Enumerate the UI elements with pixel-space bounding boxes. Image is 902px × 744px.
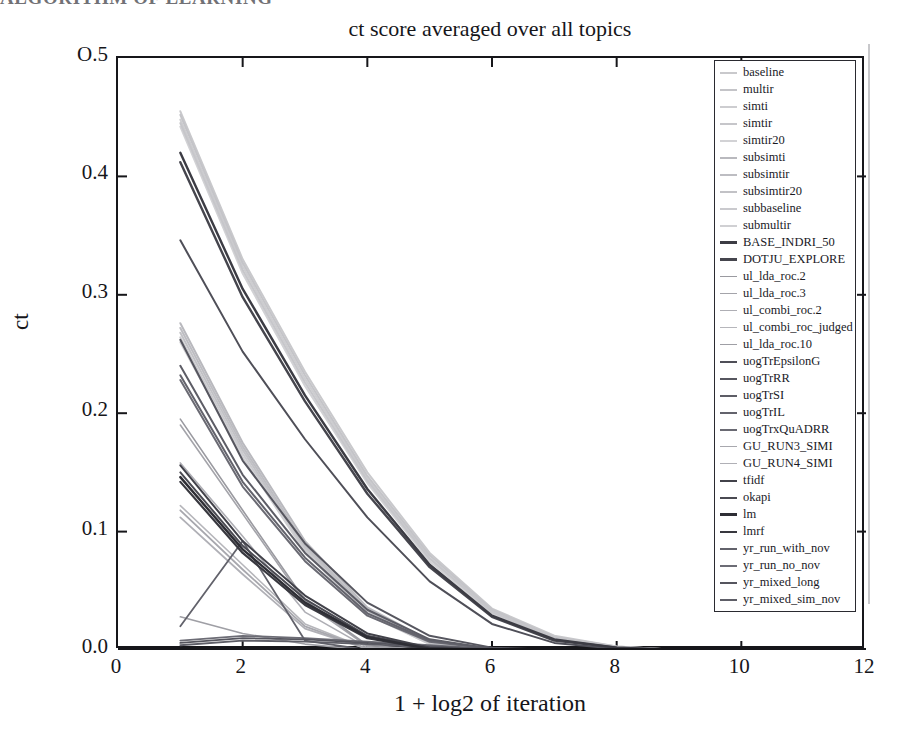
chart-legend: baselinemultirsimtisimtirsimtir20subsimt… [714,60,856,612]
legend-item-label: uogTrRR [743,372,790,385]
legend-item-label: yr_mixed_long [743,576,819,589]
legend-line-swatch-icon [720,140,737,142]
legend-item[interactable]: DOTJU_EXPLORE [715,251,855,268]
legend-line-swatch-icon [720,565,737,567]
legend-item[interactable]: ul_combi_roc.2 [715,302,855,319]
legend-line-swatch-icon [720,208,737,210]
legend-item-label: yr_run_with_nov [743,542,830,555]
chart-page: ALGORITHM OF LEARNING ct score averaged … [0,0,902,744]
legend-item[interactable]: simtir20 [715,132,855,149]
legend-item[interactable]: yr_run_no_nov [715,557,855,574]
x-axis-tick: 0 [86,654,146,679]
legend-line-swatch-icon [720,480,737,482]
legend-item-label: simti [743,100,768,113]
legend-item-label: subbaseline [743,202,801,215]
legend-line-swatch-icon [720,429,737,431]
legend-item[interactable]: uogTrRR [715,370,855,387]
y-axis-tick: O.5 [50,42,108,67]
legend-item[interactable]: baseline [715,64,855,81]
legend-item-label: submultir [743,219,791,232]
legend-line-swatch-icon [720,446,737,447]
scan-edge-artifact [868,44,870,604]
legend-line-swatch-icon [720,123,737,125]
legend-item[interactable]: GU_RUN3_SIMI [715,438,855,455]
legend-item[interactable]: uogTrEpsilonG [715,353,855,370]
legend-line-swatch-icon [720,157,737,159]
x-axis-tick: 6 [460,654,520,679]
legend-item[interactable]: tfidf [715,472,855,489]
y-axis-tick: 0.3 [50,279,108,304]
legend-item-label: lm [743,508,756,521]
x-axis-tick: 8 [585,654,645,679]
x-axis-tick: 10 [709,654,769,679]
legend-item[interactable]: yr_run_with_nov [715,540,855,557]
legend-item[interactable]: multir [715,81,855,98]
legend-item[interactable]: lm [715,506,855,523]
legend-line-swatch-icon [720,225,737,227]
legend-item[interactable]: ul_lda_roc.10 [715,336,855,353]
legend-item[interactable]: uogTrxQuADRR [715,421,855,438]
legend-item-label: simtir [743,117,772,130]
legend-item[interactable]: subsimti [715,149,855,166]
legend-item[interactable]: okapi [715,489,855,506]
legend-item[interactable]: simti [715,98,855,115]
legend-item-label: multir [743,83,774,96]
legend-item[interactable]: uogTrSI [715,387,855,404]
legend-item[interactable]: ul_lda_roc.2 [715,268,855,285]
legend-item-label: ul_lda_roc.2 [743,270,806,283]
legend-line-swatch-icon [720,276,737,277]
x-axis-tick: 12 [834,654,894,679]
legend-line-swatch-icon [720,241,737,244]
legend-item-label: ul_lda_roc.10 [743,338,812,351]
legend-line-swatch-icon [720,395,737,397]
legend-line-swatch-icon [720,361,737,363]
legend-item[interactable]: submultir [715,217,855,234]
legend-item-label: subsimtir20 [743,185,802,198]
legend-item-label: DOTJU_EXPLORE [743,253,845,266]
legend-item[interactable]: BASE_INDRI_50 [715,234,855,251]
legend-line-swatch-icon [720,582,737,584]
legend-line-swatch-icon [720,72,737,74]
legend-line-swatch-icon [720,497,737,499]
legend-item-label: yr_run_no_nov [743,559,820,572]
legend-item[interactable]: ul_combi_roc_judged [715,319,855,336]
chart-title: ct score averaged over all topics [116,16,864,42]
legend-line-swatch-icon [720,599,737,601]
legend-line-swatch-icon [720,89,737,91]
legend-item-label: uogTrIL [743,406,785,419]
legend-line-swatch-icon [720,531,737,533]
legend-item[interactable]: uogTrIL [715,404,855,421]
legend-line-swatch-icon [720,106,737,108]
legend-item[interactable]: GU_RUN4_SIMI [715,455,855,472]
legend-item[interactable]: ul_lda_roc.3 [715,285,855,302]
legend-line-swatch-icon [720,378,737,380]
legend-item-label: uogTrSI [743,389,784,402]
legend-item[interactable]: subsimtir20 [715,183,855,200]
x-axis-label: 1 + log2 of iteration [116,690,864,717]
legend-item[interactable]: lmrf [715,523,855,540]
legend-item[interactable]: subsimtir [715,166,855,183]
legend-item[interactable]: simtir [715,115,855,132]
legend-item[interactable]: yr_mixed_sim_nov [715,591,855,608]
y-axis-label: ct [8,313,34,330]
legend-line-swatch-icon [720,191,737,193]
legend-item[interactable]: yr_mixed_long [715,574,855,591]
y-axis-tick: 0.2 [50,397,108,422]
x-axis-tick-labels: 024681012 [116,654,864,684]
legend-item-label: BASE_INDRI_50 [743,236,835,249]
legend-item-label: ul_combi_roc_judged [743,321,853,334]
legend-item-label: ul_combi_roc.2 [743,304,822,317]
y-axis-tick: 0.1 [50,516,108,541]
legend-line-swatch-icon [720,548,737,550]
legend-item-label: ul_lda_roc.3 [743,287,806,300]
legend-line-swatch-icon [720,310,737,311]
legend-item-label: lmrf [743,525,765,538]
legend-item[interactable]: subbaseline [715,200,855,217]
legend-line-swatch-icon [720,293,737,294]
legend-item-label: tfidf [743,474,765,487]
y-axis-tick-labels: O.50.40.30.20.10.0 [44,0,108,744]
legend-line-swatch-icon [720,344,737,345]
legend-item-label: uogTrxQuADRR [743,423,829,436]
x-axis-tick: 2 [211,654,271,679]
legend-line-swatch-icon [720,327,737,328]
